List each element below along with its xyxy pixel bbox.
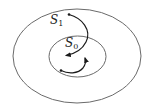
label-S1: S1	[50, 13, 63, 28]
arrow-trajectory-2	[60, 58, 86, 73]
arrow-curve	[61, 58, 86, 73]
outer-set-S1	[13, 9, 141, 103]
label-S0: S0	[65, 36, 78, 51]
nested-sets-diagram: S1 S0	[0, 0, 152, 112]
